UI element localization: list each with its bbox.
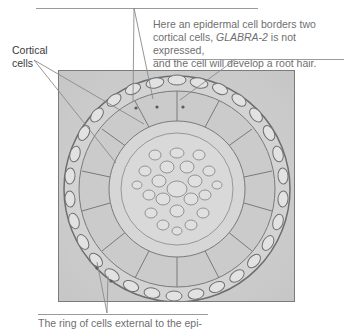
bottom-caption-rule xyxy=(38,314,208,315)
leader-lines xyxy=(0,0,344,331)
bottom-caption: The ring of cells external to the epi- xyxy=(38,317,202,330)
